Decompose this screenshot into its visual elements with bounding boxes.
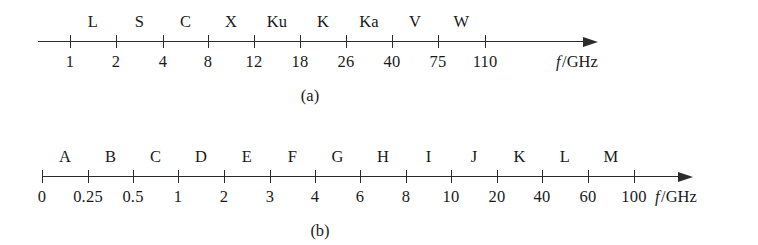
panel-a-tick-label: 1 xyxy=(66,52,74,71)
panel-b-tick xyxy=(315,170,316,183)
panel-a-axis-line xyxy=(38,41,585,42)
panel-b-band-label: M xyxy=(604,147,619,166)
panel-b-band-label: F xyxy=(288,147,297,166)
panel-a-axis-wrapper: 12481218264075110 LSCXKuKKaVW f/GHz (a) xyxy=(0,0,758,123)
panel-a-caption: (a) xyxy=(301,86,319,105)
panel-a-tick-label: 12 xyxy=(246,52,263,71)
panel-b-tick xyxy=(224,170,225,183)
panel-b-tick xyxy=(497,170,498,183)
panel-a-tick-label: 2 xyxy=(112,52,120,71)
panel-b-radar-band-axis: 00.250.512346810204060100 ABCDEFGHIJKLM … xyxy=(0,123,758,245)
panel-b-band-label: I xyxy=(426,147,432,166)
panel-a-tick-label: 18 xyxy=(292,52,309,71)
panel-a-tick xyxy=(438,35,439,48)
panel-b-unit-text: /GHz xyxy=(661,187,697,206)
panel-a-band-label: K xyxy=(317,12,329,31)
panel-b-tick-label: 3 xyxy=(266,187,274,206)
panel-b-band-label: K xyxy=(513,147,525,166)
panel-b-tick-label: 0.5 xyxy=(122,187,143,206)
panel-b-band-label: A xyxy=(59,147,71,166)
panel-b-tick-label: 40 xyxy=(534,187,551,206)
panel-b-tick xyxy=(270,170,271,183)
panel-a-tick-label: 75 xyxy=(430,52,447,71)
panel-b-band-label: J xyxy=(471,147,478,166)
panel-b-tick xyxy=(588,170,589,183)
panel-a-band-label: Ka xyxy=(359,12,379,31)
panel-b-caption: (b) xyxy=(310,221,329,240)
panel-b-band-label: B xyxy=(105,147,116,166)
panel-a-tick xyxy=(485,35,486,48)
panel-b-tick xyxy=(634,170,635,183)
panel-b-band-label: H xyxy=(377,147,389,166)
panel-b-band-label: L xyxy=(560,147,570,166)
panel-b-tick-label: 0.25 xyxy=(73,187,103,206)
panel-b-tick xyxy=(42,170,43,183)
panel-b-tick-label: 10 xyxy=(443,187,460,206)
panel-b-band-label: E xyxy=(242,147,252,166)
panel-b-axis-line xyxy=(42,176,680,177)
panel-a-tick-label: 26 xyxy=(338,52,355,71)
panel-b-tick-label: 6 xyxy=(356,187,364,206)
panel-b-tick xyxy=(133,170,134,183)
panel-a-tick xyxy=(254,35,255,48)
panel-b-tick-label: 1 xyxy=(174,187,182,206)
panel-a-band-label: X xyxy=(225,12,237,31)
panel-a-tick-label: 4 xyxy=(159,52,167,71)
panel-a-unit-label: f/GHz xyxy=(556,52,598,71)
panel-a-tick xyxy=(70,35,71,48)
panel-a-arrow-head-icon xyxy=(583,37,598,47)
panel-b-tick-label: 4 xyxy=(311,187,319,206)
panel-a-tick xyxy=(300,35,301,48)
panel-b-tick-label: 60 xyxy=(580,187,597,206)
panel-b-tick-label: 8 xyxy=(402,187,410,206)
panel-a-band-label: W xyxy=(454,12,470,31)
panel-b-tick xyxy=(88,170,89,183)
panel-a-tick xyxy=(208,35,209,48)
panel-a-unit-text: /GHz xyxy=(562,52,598,71)
panel-a-tick xyxy=(116,35,117,48)
panel-a-band-label: S xyxy=(135,12,144,31)
panel-a-tick xyxy=(392,35,393,48)
panel-b-tick xyxy=(542,170,543,183)
panel-a-tick xyxy=(163,35,164,48)
panel-b-tick xyxy=(360,170,361,183)
panel-b-axis-wrapper: 00.250.512346810204060100 ABCDEFGHIJKLM … xyxy=(0,123,758,245)
panel-a-radar-band-axis: 12481218264075110 LSCXKuKKaVW f/GHz (a) xyxy=(0,0,758,123)
panel-b-unit-label: f/GHz xyxy=(655,187,697,206)
panel-a-band-label: V xyxy=(409,12,421,31)
panel-b-tick xyxy=(451,170,452,183)
panel-a-tick xyxy=(346,35,347,48)
panel-b-band-label: D xyxy=(195,147,207,166)
panel-b-tick xyxy=(178,170,179,183)
panel-b-tick xyxy=(406,170,407,183)
panel-b-tick-label: 20 xyxy=(489,187,506,206)
panel-a-tick-label: 8 xyxy=(204,52,212,71)
panel-b-tick-label: 0 xyxy=(38,187,46,206)
panel-a-tick-label: 110 xyxy=(473,52,498,71)
panel-b-band-label: G xyxy=(331,147,343,166)
panel-b-arrow-head-icon xyxy=(678,172,693,182)
panel-b-tick-label: 2 xyxy=(220,187,228,206)
panel-b-band-label: C xyxy=(150,147,161,166)
panel-b-tick-label: 100 xyxy=(621,187,646,206)
panel-a-tick-label: 40 xyxy=(384,52,401,71)
panel-a-band-label: L xyxy=(88,12,98,31)
panel-a-band-label: C xyxy=(180,12,191,31)
panel-a-band-label: Ku xyxy=(267,12,288,31)
